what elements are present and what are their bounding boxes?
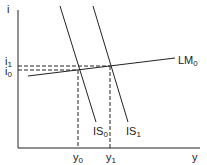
is1-label: IS1 — [126, 126, 141, 139]
is0-label: IS0 — [93, 126, 108, 139]
is-lm-diagram: i i1 i0 LM0 IS0 IS1 y0 y1 y — [0, 0, 207, 165]
lm0-label: LM0 — [178, 55, 198, 68]
i0-label: i0 — [5, 66, 12, 79]
x-axis-label: y — [192, 152, 198, 163]
is0-curve — [60, 6, 96, 122]
y0-label: y0 — [73, 152, 83, 165]
lm0-curve — [28, 58, 175, 76]
y1-label: y1 — [106, 152, 116, 165]
y-axis-label: i — [7, 4, 9, 15]
diagram-canvas — [0, 0, 207, 165]
